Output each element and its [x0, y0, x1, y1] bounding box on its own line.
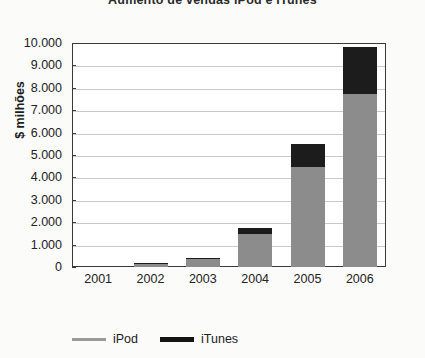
y-tick-mark	[72, 267, 76, 268]
legend-swatch-ipod	[72, 338, 106, 341]
x-tick-label: 2004	[241, 272, 269, 286]
y-tick-mark	[72, 245, 76, 246]
x-tick-label: 2005	[294, 272, 322, 286]
y-tick-mark	[72, 110, 76, 111]
bar-segment-ipod	[291, 167, 325, 267]
y-tick-label: 0	[55, 260, 62, 274]
bar-group	[238, 43, 272, 267]
bar-segment-itunes	[291, 144, 325, 167]
bar-group	[81, 43, 115, 267]
bar-group	[186, 43, 220, 267]
chart-legend: iPod iTunes	[72, 330, 352, 348]
y-tick-mark	[72, 200, 76, 201]
x-tick-label: 2001	[84, 272, 112, 286]
x-axis-tick-labels: 200120022003200420052006	[72, 272, 386, 292]
x-tick-label: 2002	[137, 272, 165, 286]
y-tick-mark	[72, 155, 76, 156]
y-tick-label: 3.000	[31, 193, 62, 207]
legend-label-itunes: iTunes	[201, 332, 238, 346]
y-tick-label: 5.000	[31, 148, 62, 162]
y-tick-label: 7.000	[31, 103, 62, 117]
legend-swatch-itunes	[160, 337, 194, 342]
bar-segment-itunes	[343, 47, 377, 94]
y-tick-label: 10.000	[24, 36, 62, 50]
bar-segment-ipod	[186, 258, 220, 267]
y-tick-label: 9.000	[31, 58, 62, 72]
chart-title: Aumento de vendas iPod e iTunes	[0, 0, 425, 5]
bar-group	[291, 43, 325, 267]
y-tick-label: 8.000	[31, 81, 62, 95]
y-tick-mark	[72, 222, 76, 223]
bar-segment-ipod	[343, 94, 377, 267]
y-tick-mark	[72, 133, 76, 134]
bar-group	[343, 43, 377, 267]
bar-segment-itunes	[186, 258, 220, 259]
y-tick-label: 1.000	[31, 238, 62, 252]
y-tick-mark	[72, 88, 76, 89]
bar-group	[134, 43, 168, 267]
y-tick-label: 2.000	[31, 215, 62, 229]
y-tick-label: 6.000	[31, 126, 62, 140]
y-tick-label: 4.000	[31, 170, 62, 184]
bar-segment-ipod	[238, 234, 272, 267]
x-tick-label: 2006	[346, 272, 374, 286]
x-tick-label: 2003	[189, 272, 217, 286]
legend-entry-itunes: iTunes	[160, 332, 238, 346]
bar-segment-ipod	[134, 264, 168, 267]
chart-page: Aumento de vendas iPod e iTunes $ milhõe…	[0, 0, 425, 358]
y-tick-mark	[72, 65, 76, 66]
y-tick-mark	[72, 177, 76, 178]
bar-segment-itunes	[238, 228, 272, 234]
legend-label-ipod: iPod	[113, 332, 138, 346]
legend-entry-ipod: iPod	[72, 332, 138, 346]
y-axis-tick-labels: 01.0002.0003.0004.0005.0006.0007.0008.00…	[0, 43, 68, 267]
y-tick-mark	[72, 43, 76, 44]
bars-layer	[72, 43, 386, 267]
